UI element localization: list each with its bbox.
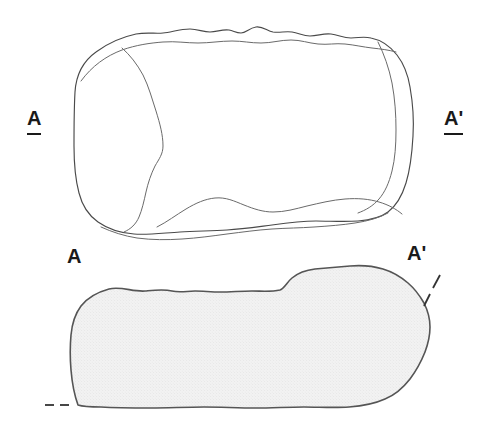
artifact-drawing-svg <box>0 0 500 437</box>
plan-top-ridge-line <box>81 40 396 81</box>
figure-root: A A' A A' <box>0 0 500 437</box>
plan-lower-inner-arc <box>157 198 402 227</box>
plan-section-label-a-prime-text: A' <box>444 108 463 135</box>
section-label-a: A <box>67 246 81 266</box>
plan-bottom-secondary-line <box>101 213 388 240</box>
plan-section-label-a-prime: A' <box>444 108 463 140</box>
section-outline <box>70 266 430 408</box>
plan-left-facet-line <box>122 48 163 232</box>
plan-section-label-a: A <box>27 108 41 135</box>
section-view-group <box>45 266 440 408</box>
plan-view-group <box>74 27 413 240</box>
section-label-a-prime: A' <box>407 243 426 263</box>
plan-outer-contour <box>74 27 413 234</box>
plan-right-facet-line <box>358 42 396 213</box>
section-cut-dash-right <box>424 275 440 306</box>
